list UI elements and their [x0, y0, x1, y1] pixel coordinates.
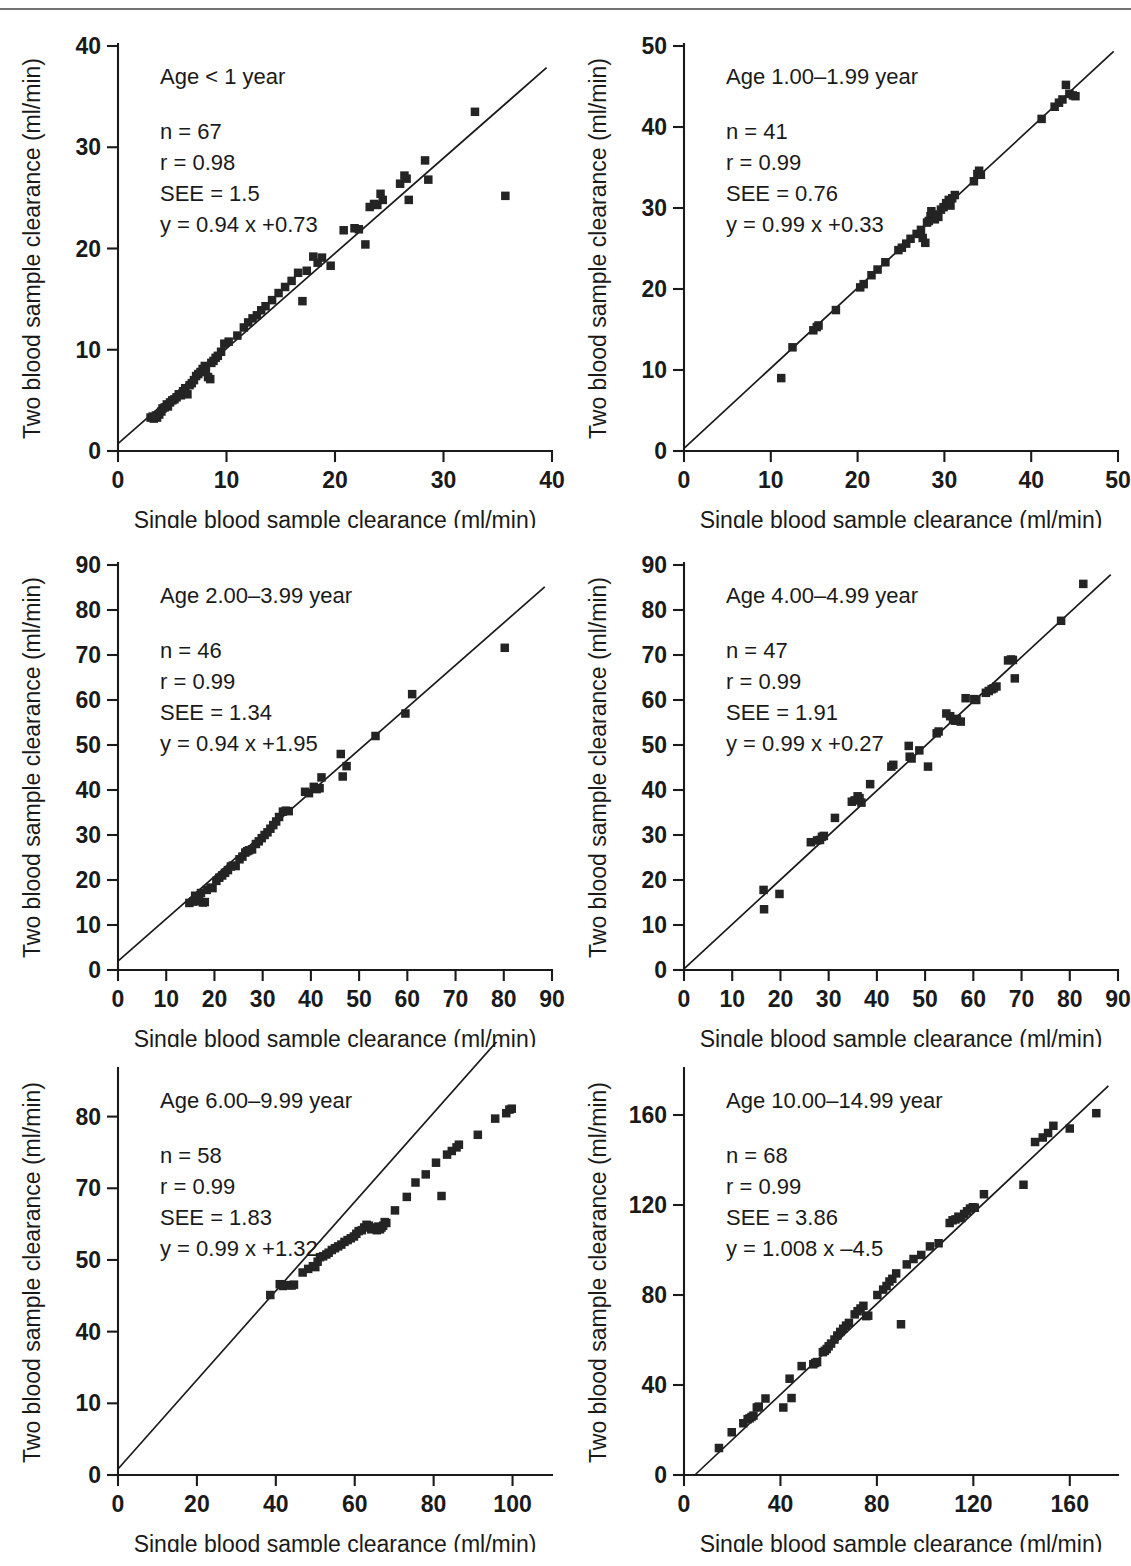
data-point [907, 754, 916, 763]
data-point [1079, 580, 1088, 589]
stat-n: n = 68 [726, 1143, 788, 1168]
data-point [1049, 1122, 1058, 1131]
data-point [424, 175, 433, 184]
x-axis-tick-label: 40 [539, 467, 565, 493]
data-point [1011, 674, 1020, 683]
y-axis-tick-label: 0 [88, 1462, 101, 1488]
y-axis-title: Two blood sample clearance (ml/min) [585, 577, 611, 958]
y-axis-tick-label: 90 [641, 552, 667, 578]
data-point [471, 108, 480, 117]
scatter-plot: 01040507080020406080100Age 6.00–9.99 yea… [0, 1042, 565, 1552]
data-point [977, 171, 986, 180]
y-axis-tick-label: 40 [75, 1319, 101, 1345]
data-point [287, 277, 296, 286]
y-axis-tick-label: 70 [75, 642, 101, 668]
y-axis-title: Two blood sample clearance (ml/min) [19, 58, 45, 439]
data-point [290, 1280, 299, 1289]
scatter-plot: 010203040010203040Age < 1 yearn = 67r = … [0, 18, 565, 528]
stat-see: SEE = 1.5 [160, 181, 260, 206]
data-point [889, 761, 898, 770]
data-point [787, 1394, 796, 1403]
regression-line [684, 575, 1111, 969]
y-axis-tick-label: 0 [88, 438, 101, 464]
data-point [961, 694, 970, 703]
x-axis-tick-label: 70 [443, 986, 469, 1012]
data-point [401, 709, 410, 718]
data-point [421, 156, 430, 165]
x-axis-tick-label: 20 [768, 986, 794, 1012]
stat-equation: y = 1.008 x –4.5 [726, 1236, 883, 1261]
y-axis-tick-label: 20 [641, 867, 667, 893]
stat-r: r = 0.98 [160, 150, 235, 175]
x-axis-tick-label: 20 [184, 1491, 210, 1517]
x-axis-tick-label: 10 [719, 986, 745, 1012]
data-point [951, 191, 960, 200]
stat-r: r = 0.99 [726, 669, 801, 694]
data-point [474, 1131, 483, 1140]
y-axis-tick-label: 60 [641, 687, 667, 713]
y-axis-tick-label: 30 [75, 822, 101, 848]
data-point [820, 832, 829, 841]
data-point [1092, 1109, 1101, 1118]
x-axis-tick-label: 100 [493, 1491, 531, 1517]
data-point [1009, 656, 1018, 665]
y-axis-tick-label: 0 [654, 438, 667, 464]
data-point [779, 1403, 788, 1412]
data-point [859, 1302, 868, 1311]
y-axis-tick-label: 50 [75, 732, 101, 758]
data-point [924, 762, 933, 771]
stat-see: SEE = 0.76 [726, 181, 838, 206]
data-point [391, 1206, 400, 1215]
y-axis-tick-label: 40 [641, 114, 667, 140]
data-point [501, 192, 510, 201]
y-axis-tick-label: 10 [75, 337, 101, 363]
data-point [992, 682, 1001, 691]
data-point [371, 732, 380, 741]
data-point [972, 696, 981, 705]
x-axis-tick-label: 90 [1105, 986, 1131, 1012]
y-axis-title: Two blood sample clearance (ml/min) [19, 1082, 45, 1463]
x-axis-tick-label: 0 [112, 986, 125, 1012]
y-axis-tick-label: 50 [641, 33, 667, 59]
x-axis-tick-label: 80 [421, 1491, 447, 1517]
data-point [761, 1394, 770, 1403]
panel-age-1-to-1.99: 0102030405001020304050Age 1.00–1.99 year… [566, 18, 1131, 528]
stat-n: n = 41 [726, 119, 788, 144]
x-axis-tick-label: 50 [1105, 467, 1131, 493]
x-axis-tick-label: 20 [845, 467, 871, 493]
y-axis-tick-label: 20 [75, 867, 101, 893]
x-axis-tick-label: 50 [346, 986, 372, 1012]
y-axis-tick-label: 40 [75, 33, 101, 59]
stat-n: n = 46 [160, 638, 222, 663]
figure-container: 010203040010203040Age < 1 yearn = 67r = … [0, 0, 1131, 1566]
data-point [432, 1158, 441, 1167]
data-point [298, 297, 307, 306]
data-point [727, 1428, 736, 1437]
x-axis-tick-label: 80 [1057, 986, 1083, 1012]
data-point [508, 1104, 516, 1113]
x-axis-tick-label: 40 [298, 986, 324, 1012]
scatter-plot: 0102030405001020304050Age 1.00–1.99 year… [566, 18, 1131, 528]
x-axis-tick-label: 50 [912, 986, 938, 1012]
x-axis-tick-label: 10 [153, 986, 179, 1012]
data-point [402, 174, 411, 183]
data-point [1062, 81, 1071, 90]
panel-age-under-1: 010203040010203040Age < 1 yearn = 67r = … [0, 18, 565, 528]
stat-n: n = 47 [726, 638, 788, 663]
data-point [909, 1255, 918, 1264]
data-point [797, 1362, 806, 1371]
data-point [892, 1269, 901, 1278]
data-point [403, 1193, 412, 1202]
data-point [500, 644, 509, 653]
panel-title: Age 4.00–4.99 year [726, 583, 918, 608]
x-axis-tick-label: 30 [932, 467, 958, 493]
x-axis-tick-label: 0 [678, 986, 691, 1012]
panel-title: Age 6.00–9.99 year [160, 1088, 352, 1113]
x-axis-tick-label: 30 [816, 986, 842, 1012]
x-axis-tick-label: 0 [112, 467, 125, 493]
panel-age-6-to-9.99: 01040507080020406080100Age 6.00–9.99 yea… [0, 1042, 565, 1552]
y-axis-title: Two blood sample clearance (ml/min) [585, 58, 611, 439]
data-point [859, 280, 868, 289]
data-point [775, 890, 784, 899]
data-point [754, 1402, 763, 1411]
